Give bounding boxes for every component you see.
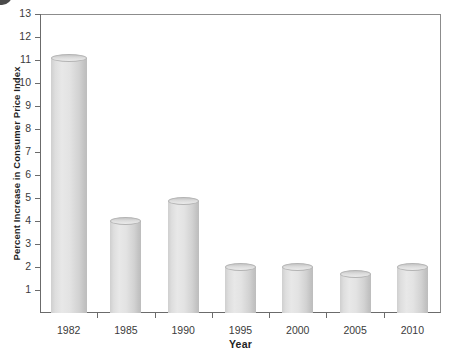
y-axis-title: Percent Increase in Consumer Price Index xyxy=(10,14,24,313)
x-axis-tick xyxy=(269,313,270,314)
x-tick-label: 2010 xyxy=(401,324,424,336)
y-tick-label: 3 xyxy=(25,237,31,250)
y-tick-mark xyxy=(35,244,41,245)
y-tick-mark xyxy=(35,290,41,291)
bar-2005 xyxy=(340,270,371,313)
bar-1985 xyxy=(110,217,141,313)
y-tick-label: 8 xyxy=(25,122,31,135)
bar-body xyxy=(225,267,256,313)
y-tick-mark xyxy=(35,175,41,176)
y-tick-label: 6 xyxy=(25,168,31,181)
x-tick-mark xyxy=(269,313,270,318)
x-tick-mark xyxy=(384,313,385,318)
x-tick-mark xyxy=(97,313,98,318)
x-axis-tick xyxy=(326,313,327,314)
bar-top-ellipse xyxy=(397,263,428,271)
y-tick-mark xyxy=(35,60,41,61)
y-tick-mark xyxy=(35,14,41,15)
x-tick-mark xyxy=(212,313,213,318)
bar-body xyxy=(51,58,87,313)
bar-top-ellipse xyxy=(51,54,87,62)
x-axis-tick xyxy=(97,313,98,314)
x-axis-tick xyxy=(384,313,385,314)
x-axis-category: 1995 xyxy=(241,313,242,314)
y-tick-label: 5 xyxy=(25,191,31,204)
x-axis-category: 2000 xyxy=(298,313,299,314)
x-tick-label: 2005 xyxy=(343,324,366,336)
chart-screenshot: 12345678910111213 1982198519901995200020… xyxy=(0,0,451,358)
y-tick-mark xyxy=(35,37,41,38)
bar-body xyxy=(340,274,371,313)
bar-body xyxy=(110,221,141,313)
bar-1982 xyxy=(51,54,87,313)
x-tick-mark xyxy=(155,313,156,318)
y-tick-label: 9 xyxy=(25,99,31,112)
y-tick-mark xyxy=(35,129,41,130)
x-axis-tick xyxy=(212,313,213,314)
x-tick-mark xyxy=(326,313,327,318)
y-tick-label: 1 xyxy=(25,283,31,296)
bar-2000 xyxy=(282,263,313,313)
x-axis-category: 1985 xyxy=(126,313,127,314)
x-axis-category: 1982 xyxy=(69,313,70,314)
x-axis-category: 2010 xyxy=(412,313,413,314)
y-tick-label: 2 xyxy=(25,260,31,273)
x-tick-label: 2000 xyxy=(286,324,309,336)
y-tick-mark xyxy=(35,152,41,153)
y-tick-label: 4 xyxy=(25,214,31,227)
x-axis-category: 1990 xyxy=(183,313,184,314)
y-tick-mark xyxy=(35,198,41,199)
y-tick-mark xyxy=(35,83,41,84)
x-axis-title: Year xyxy=(40,338,441,350)
y-tick-mark xyxy=(35,221,41,222)
bar-body xyxy=(397,267,428,313)
x-axis-category: 2005 xyxy=(355,313,356,314)
bar-body xyxy=(168,201,199,313)
bar-top-ellipse xyxy=(340,270,371,278)
x-tick-label: 1990 xyxy=(172,324,195,336)
scan-edge-artifact xyxy=(0,0,12,5)
y-tick-label: 7 xyxy=(25,145,31,158)
bar-2010 xyxy=(397,263,428,313)
bar-1990 xyxy=(168,197,199,313)
bar-body xyxy=(282,267,313,313)
x-tick-label: 1982 xyxy=(57,324,80,336)
bar-1995 xyxy=(225,263,256,313)
x-axis-tick xyxy=(155,313,156,314)
bar-top-ellipse xyxy=(225,263,256,271)
x-tick-label: 1995 xyxy=(229,324,252,336)
y-tick-mark xyxy=(35,106,41,107)
x-tick-label: 1985 xyxy=(114,324,137,336)
y-tick-mark xyxy=(35,267,41,268)
